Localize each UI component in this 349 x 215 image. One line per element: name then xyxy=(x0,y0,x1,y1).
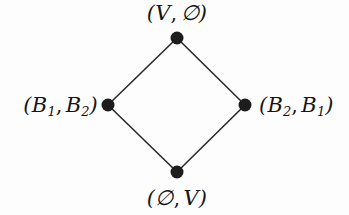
label-open-paren: ( xyxy=(23,93,31,117)
label-close-paren: ) xyxy=(325,93,333,117)
lattice-diagram: (V, ∅) (B1, B2) (B2, B1) (∅, V) xyxy=(0,0,349,215)
label-second-subscript: 2 xyxy=(81,104,89,119)
edge-left-bottom xyxy=(108,105,177,172)
edge-top-left xyxy=(108,38,177,105)
node-right xyxy=(239,99,252,112)
label-comma: , xyxy=(56,93,64,117)
node-left xyxy=(102,99,115,112)
label-second-subscript: 1 xyxy=(317,104,325,119)
node-label-right: (B2, B1) xyxy=(259,95,334,118)
label-close-paren: ) xyxy=(199,186,207,210)
node-label-top: (V, ∅) xyxy=(147,3,207,24)
label-close-paren: ) xyxy=(199,1,207,25)
edge-right-bottom xyxy=(177,105,245,172)
label-second-term: B xyxy=(66,93,82,117)
label-first-term: ∅ xyxy=(155,186,173,210)
node-bottom xyxy=(171,166,184,179)
node-label-left: (B1, B2) xyxy=(23,95,98,118)
label-first-subscript: 1 xyxy=(47,104,55,119)
node-top xyxy=(171,32,184,45)
label-comma: , xyxy=(291,93,299,117)
label-first-term: B xyxy=(267,93,283,117)
label-second-term: ∅ xyxy=(181,1,199,25)
node-label-bottom: (∅, V) xyxy=(147,188,207,209)
label-first-term: V xyxy=(155,1,170,25)
label-close-paren: ) xyxy=(90,93,98,117)
label-comma: , xyxy=(171,1,179,25)
label-comma: , xyxy=(173,186,181,210)
edge-top-right xyxy=(177,38,245,105)
label-second-term: V xyxy=(183,186,198,210)
label-second-term: B xyxy=(301,93,317,117)
label-first-term: B xyxy=(32,93,48,117)
